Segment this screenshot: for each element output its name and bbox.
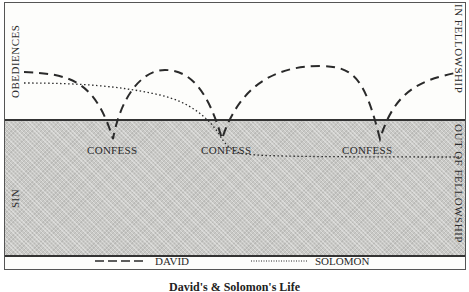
legend-david: DAVID: [95, 255, 189, 267]
confess-label-3: CONFESS: [342, 144, 392, 156]
david-curve: [24, 66, 460, 139]
confess-label-1: CONFESS: [87, 144, 137, 156]
dashed-line-icon: [95, 258, 147, 264]
dotted-line-icon: [251, 258, 307, 264]
confess-label-2: CONFESS: [201, 144, 251, 156]
fellowship-diagram: OBEDIENCES SIN IN FELLOWSHIP OUT OF FELL…: [0, 0, 469, 292]
legend-solomon: SOLOMON: [251, 255, 369, 267]
caption: David's & Solomon's Life: [0, 280, 469, 292]
legend-david-label: DAVID: [155, 255, 189, 267]
legend: DAVID SOLOMON: [5, 257, 465, 269]
legend-solomon-label: SOLOMON: [315, 255, 369, 267]
